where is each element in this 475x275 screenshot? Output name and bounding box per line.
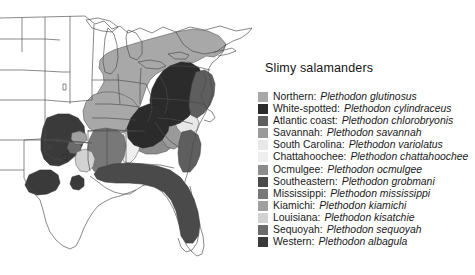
legend-label-mississippi: Mississippi:Plethodon mississippi: [273, 188, 430, 200]
legend-item-mississippi[interactable]: Mississippi:Plethodon mississippi: [252, 188, 475, 200]
legend-scientific-name-southeastern: Plethodon grobmani: [338, 176, 435, 187]
legend-item-white-spotted[interactable]: White-spotted:Plethodon cylindraceus: [252, 103, 475, 115]
legend-scientific-name-kiamichi: Plethodon kiamichi: [315, 200, 406, 211]
legend-label-kiamichi: Kiamichi:Plethodon kiamichi: [273, 200, 406, 212]
legend-label-south-carolina: South Carolina:Plethodon variolatus: [273, 139, 443, 151]
legend-list: Northern:Plethodon glutinosus White-spot…: [252, 91, 475, 248]
legend-common-name-white-spotted: White-spotted:: [273, 103, 340, 114]
map-panel: [0, 0, 252, 275]
legend-swatch-southeastern: [258, 177, 268, 187]
legend-item-ocmulgee[interactable]: Ocmulgee:Plethodon ocmulgee: [252, 164, 475, 176]
legend-scientific-name-chattahoochee: Plethodon chattahoochee: [346, 151, 468, 162]
salamander-distribution-figure: Slimy salamanders Northern:Plethodon glu…: [0, 0, 475, 275]
legend-item-kiamichi[interactable]: Kiamichi:Plethodon kiamichi: [252, 200, 475, 212]
legend-common-name-south-carolina: South Carolina:: [273, 139, 345, 150]
legend-label-ocmulgee: Ocmulgee:Plethodon ocmulgee: [273, 164, 422, 176]
map-svg: [0, 0, 252, 275]
legend-item-southeastern[interactable]: Southeastern:Plethodon grobmani: [252, 176, 475, 188]
legend-swatch-louisiana: [258, 213, 268, 223]
legend-label-sequoyah: Sequoyah:Plethodon sequoyah: [273, 224, 421, 236]
legend-common-name-savannah: Savannah:: [273, 127, 323, 138]
legend-label-western: Western:Plethodon albagula: [273, 236, 407, 248]
legend-swatch-northern: [258, 92, 268, 102]
legend-scientific-name-ocmulgee: Plethodon ocmulgee: [323, 164, 422, 175]
legend-item-louisiana[interactable]: Louisiana:Plethodon kisatchie: [252, 212, 475, 224]
legend-scientific-name-south-carolina: Plethodon variolatus: [345, 139, 443, 150]
legend-common-name-western: Western:: [273, 236, 314, 247]
legend-scientific-name-white-spotted: Plethodon cylindraceus: [340, 103, 451, 114]
legend-label-southeastern: Southeastern:Plethodon grobmani: [273, 176, 435, 188]
legend-common-name-chattahoochee: Chattahoochee:: [273, 151, 346, 162]
legend-label-savannah: Savannah:Plethodon savannah: [273, 127, 421, 139]
legend-swatch-atlantic-coast: [258, 116, 268, 126]
legend-swatch-kiamichi: [258, 201, 268, 211]
legend-common-name-kiamichi: Kiamichi:: [273, 200, 315, 211]
legend-item-northern[interactable]: Northern:Plethodon glutinosus: [252, 91, 475, 103]
legend-common-name-sequoyah: Sequoyah:: [273, 224, 323, 235]
legend-scientific-name-atlantic-coast: Plethodon chlorobryonis: [338, 115, 453, 126]
legend-label-northern: Northern:Plethodon glutinosus: [273, 91, 417, 103]
legend-swatch-western: [258, 237, 268, 247]
legend-panel: Slimy salamanders Northern:Plethodon glu…: [252, 0, 475, 275]
legend-item-atlantic-coast[interactable]: Atlantic coast:Plethodon chlorobryonis: [252, 115, 475, 127]
legend-scientific-name-savannah: Plethodon savannah: [323, 127, 422, 138]
legend-item-savannah[interactable]: Savannah:Plethodon savannah: [252, 127, 475, 139]
legend-title: Slimy salamanders: [265, 61, 373, 75]
legend-swatch-mississippi: [258, 189, 268, 199]
legend-common-name-ocmulgee: Ocmulgee:: [273, 164, 323, 175]
legend-swatch-white-spotted: [258, 104, 268, 114]
legend-common-name-louisiana: Louisiana:: [273, 212, 320, 223]
legend-swatch-south-carolina: [258, 140, 268, 150]
legend-label-louisiana: Louisiana:Plethodon kisatchie: [273, 212, 415, 224]
legend-swatch-savannah: [258, 128, 268, 138]
legend-label-white-spotted: White-spotted:Plethodon cylindraceus: [273, 103, 451, 115]
legend-scientific-name-louisiana: Plethodon kisatchie: [320, 212, 414, 223]
legend-item-south-carolina[interactable]: South Carolina:Plethodon variolatus: [252, 139, 475, 151]
legend-scientific-name-mississippi: Plethodon mississippi: [326, 188, 430, 199]
legend-swatch-ocmulgee: [258, 165, 268, 175]
legend-item-chattahoochee[interactable]: Chattahoochee:Plethodon chattahoochee: [252, 151, 475, 163]
legend-label-chattahoochee: Chattahoochee:Plethodon chattahoochee: [273, 151, 468, 163]
legend-swatch-sequoyah: [258, 225, 268, 235]
legend-scientific-name-western: Plethodon albagula: [314, 236, 407, 247]
legend-common-name-atlantic-coast: Atlantic coast:: [273, 115, 338, 126]
legend-common-name-northern: Northern:: [273, 91, 316, 102]
legend-common-name-southeastern: Southeastern:: [273, 176, 338, 187]
legend-swatch-chattahoochee: [258, 152, 268, 162]
legend-scientific-name-northern: Plethodon glutinosus: [316, 91, 416, 102]
range-western-texas-spot-a: [70, 175, 84, 190]
legend-scientific-name-sequoyah: Plethodon sequoyah: [323, 224, 422, 235]
legend-label-atlantic-coast: Atlantic coast:Plethodon chlorobryonis: [273, 115, 453, 127]
legend-common-name-mississippi: Mississippi:: [273, 188, 326, 199]
legend-item-western[interactable]: Western:Plethodon albagula: [252, 236, 475, 248]
legend-item-sequoyah[interactable]: Sequoyah:Plethodon sequoyah: [252, 224, 475, 236]
